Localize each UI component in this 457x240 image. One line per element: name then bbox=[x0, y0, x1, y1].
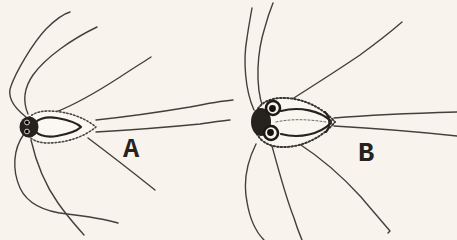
specimen-b-leg-lower-left bbox=[245, 144, 264, 240]
specimen-b-eye-top-pupil bbox=[269, 105, 276, 112]
specimen-a-leg-right-lower bbox=[96, 120, 230, 132]
specimen-a-drawing bbox=[10, 12, 233, 235]
specimen-a-leg-upper-right bbox=[56, 57, 151, 112]
specimen-b-drawing bbox=[245, 3, 457, 240]
specimen-a-eye-top bbox=[25, 120, 30, 125]
specimen-b-leg-lower-right bbox=[298, 143, 390, 233]
specimen-a-leg-lower-mid bbox=[31, 140, 84, 235]
panel-label-a: A bbox=[123, 135, 140, 165]
specimen-b-leg-lower-mid bbox=[272, 146, 302, 240]
specimen-a-leg-right-upper bbox=[96, 100, 233, 120]
specimen-b-leg-right-upper bbox=[334, 112, 457, 118]
specimen-a-head bbox=[20, 117, 39, 138]
specimen-illustration: A B bbox=[0, 0, 457, 240]
specimen-a-leg-upper-left-inner bbox=[25, 27, 97, 114]
specimen-a-eye-bottom bbox=[25, 129, 30, 134]
panel-label-b: B bbox=[358, 139, 374, 169]
scanned-figure-page: A B bbox=[0, 0, 457, 240]
specimen-a-leg-lower-left-sweep bbox=[15, 134, 118, 223]
specimen-b-leg-up-outer bbox=[245, 8, 254, 110]
specimen-a-leg-lower-right bbox=[88, 138, 155, 190]
specimen-b-leg-up-inner bbox=[258, 3, 273, 108]
specimen-b-eye-bottom-pupil bbox=[267, 129, 274, 136]
specimen-a-leg-upper-left-outer bbox=[10, 12, 70, 117]
specimen-b-leg-right-lower bbox=[334, 126, 457, 136]
specimen-b-leg-upper-right bbox=[286, 22, 402, 103]
